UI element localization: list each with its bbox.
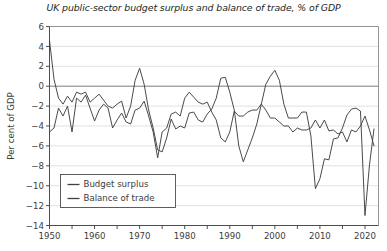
svg-text:1960: 1960 xyxy=(84,231,106,241)
svg-text:2000: 2000 xyxy=(264,231,286,241)
svg-text:6: 6 xyxy=(39,22,44,32)
chart-legend[interactable]: Budget surplusBalance of trade xyxy=(61,175,176,208)
svg-text:2020: 2020 xyxy=(354,231,376,241)
svg-text:−2: −2 xyxy=(31,101,44,111)
svg-text:−14: −14 xyxy=(26,221,44,231)
y-axis: 6420−2−4−6−8−10−12−14 xyxy=(26,22,50,231)
svg-text:2: 2 xyxy=(39,61,44,71)
svg-text:−10: −10 xyxy=(26,181,44,191)
series-line-1 xyxy=(50,92,374,158)
svg-text:4: 4 xyxy=(39,42,44,52)
x-axis: 19501960197019801990200020102020 xyxy=(39,226,376,242)
svg-text:1980: 1980 xyxy=(174,231,196,241)
svg-text:−8: −8 xyxy=(31,161,44,171)
y-axis-title-text: Per cent of GDP xyxy=(6,92,16,159)
legend-label-0[interactable]: Budget surplus xyxy=(84,179,149,189)
legend-label-1[interactable]: Balance of trade xyxy=(84,193,155,203)
line-chart-plot: 6420−2−4−6−8−10−12−14 195019601970198019… xyxy=(0,0,387,251)
svg-text:2010: 2010 xyxy=(309,231,331,241)
y-axis-title: Per cent of GDP xyxy=(6,92,16,159)
svg-text:1950: 1950 xyxy=(39,231,61,241)
chart-container: UK public-sector budget surplus and bala… xyxy=(0,0,387,251)
svg-text:−12: −12 xyxy=(26,201,44,211)
svg-text:1990: 1990 xyxy=(219,231,241,241)
svg-text:0: 0 xyxy=(39,81,44,91)
svg-text:−4: −4 xyxy=(31,121,44,131)
svg-text:−6: −6 xyxy=(31,141,44,151)
svg-text:1970: 1970 xyxy=(129,231,151,241)
